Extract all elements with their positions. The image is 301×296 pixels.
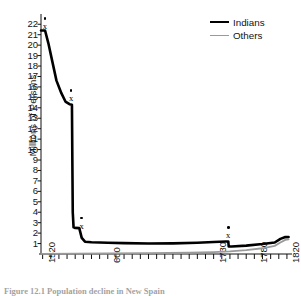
legend-label-indians: Indians [233,17,265,28]
legend-item-indians[interactable]: Indians [210,16,298,28]
legend-swatch-others [210,35,229,36]
legend-item-others[interactable]: Others [210,29,298,41]
series-line-others [41,239,289,253]
plot-area [0,0,301,296]
marker-dot [227,226,230,229]
legend-label-others: Others [233,30,262,41]
chart-legend: Indians Others [210,16,298,42]
series-line-indians [41,31,289,247]
marker-x-label: x [43,22,47,31]
legend-swatch-indians [210,21,229,23]
figure-caption: Figure 12.1 Population decline in New Sp… [4,286,165,296]
marker-x-label: x [80,222,84,231]
marker-x-label: x [69,94,73,103]
marker-x-label: x [226,231,230,240]
figure-container: Millions of Persons 12345678910111213141… [0,0,301,296]
